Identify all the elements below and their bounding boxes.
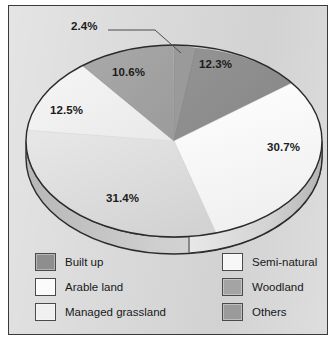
legend-label-arable-land: Arable land (65, 281, 123, 293)
legend-item-managed-grassland[interactable]: Managed grassland (35, 299, 166, 324)
legend-label-others: Others (252, 306, 287, 318)
legend-item-arable-land[interactable]: Arable land (35, 274, 166, 299)
legend-item-woodland[interactable]: Woodland (222, 274, 317, 299)
legend-swatch-built-up (35, 253, 56, 271)
pie-chart-svg (9, 6, 327, 256)
legend-swatch-arable-land (35, 278, 56, 296)
legend-item-semi-natural[interactable]: Semi-natural (222, 249, 317, 274)
legend-column-left: Built up Arable land Managed grassland (35, 249, 166, 324)
slice-label-managed-grassland: 31.4% (106, 192, 139, 204)
legend-item-built-up[interactable]: Built up (35, 249, 166, 274)
legend-item-others[interactable]: Others (222, 299, 317, 324)
legend-swatch-managed-grassland (35, 303, 56, 321)
legend-swatch-woodland (222, 278, 243, 296)
slice-label-semi-natural: 12.5% (50, 104, 83, 116)
slice-label-woodland: 10.6% (112, 66, 145, 78)
slice-label-others: 2.4% (71, 20, 98, 32)
slice-label-built-up: 12.3% (199, 58, 232, 70)
slice-label-arable-land: 30.7% (267, 141, 300, 153)
legend-label-semi-natural: Semi-natural (252, 256, 317, 268)
legend-swatch-others (222, 303, 243, 321)
legend-label-built-up: Built up (65, 256, 103, 268)
figure-panel: 2.4% 12.3% 30.7% 31.4% 12.5% 10.6% Built… (8, 5, 328, 335)
legend-label-managed-grassland: Managed grassland (65, 306, 166, 318)
legend-column-right: Semi-natural Woodland Others (222, 249, 317, 324)
legend-swatch-semi-natural (222, 253, 243, 271)
pie-chart: 2.4% 12.3% 30.7% 31.4% 12.5% 10.6% (9, 6, 327, 256)
legend-label-woodland: Woodland (252, 281, 304, 293)
legend: Built up Arable land Managed grassland S… (9, 249, 327, 333)
